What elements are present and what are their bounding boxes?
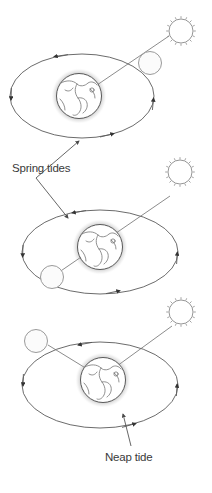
sun-icon bbox=[165, 157, 195, 187]
neap-tide-label: Neap tide bbox=[105, 451, 152, 463]
moon-icon bbox=[41, 266, 64, 289]
spring-tides-label: Spring tides bbox=[12, 162, 71, 174]
earth-globe-icon bbox=[51, 68, 107, 124]
sun-icon bbox=[166, 297, 196, 327]
moon-icon bbox=[139, 52, 162, 75]
moon-icon bbox=[25, 330, 48, 353]
earth-globe-icon bbox=[72, 219, 128, 275]
tides-diagram: Spring tides Neap tide bbox=[0, 0, 212, 493]
sun-icon bbox=[166, 16, 196, 46]
earth-globe-icon bbox=[75, 352, 131, 408]
